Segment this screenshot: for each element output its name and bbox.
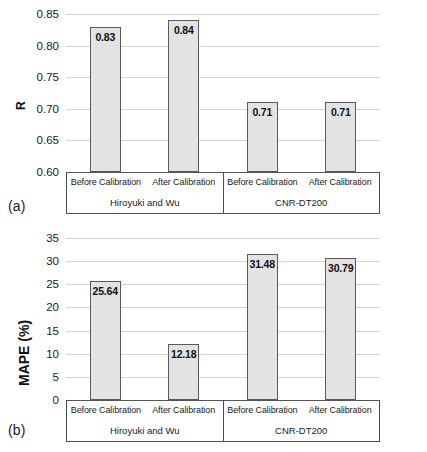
y-axis-tick-label: 0.75: [37, 71, 59, 83]
panel-a-plot-area: 0.600.650.700.750.800.85 0.830.840.710.7…: [66, 14, 380, 172]
condition-row: Before CalibrationAfter Calibration: [224, 400, 380, 420]
condition-row: Before CalibrationAfter Calibration: [224, 172, 380, 192]
condition-row: Before CalibrationAfter Calibration: [67, 400, 223, 420]
panel-b-bars: 25.6412.1831.4830.79: [66, 238, 380, 400]
condition-label: Before Calibration: [224, 400, 302, 420]
group-label: CNR-DT200: [224, 192, 380, 213]
bar: 0.71: [325, 102, 356, 172]
group-label: CNR-DT200: [224, 420, 380, 441]
y-axis-tick-label: 0.60: [37, 166, 59, 178]
y-axis-tick-label: 15: [46, 325, 59, 337]
y-axis-tick-label: 0.80: [37, 40, 59, 52]
category-group: Before CalibrationAfter CalibrationCNR-D…: [223, 400, 380, 441]
y-axis-tick-label: 20: [46, 301, 59, 313]
y-axis-tick-label: 0.85: [37, 8, 59, 20]
category-group: Before CalibrationAfter CalibrationHiroy…: [67, 400, 223, 441]
panel-b-y-axis-title: MAPE (%): [16, 320, 32, 386]
condition-label: Before Calibration: [67, 400, 145, 420]
bar: 0.83: [90, 27, 121, 172]
category-group: Before CalibrationAfter CalibrationHiroy…: [67, 172, 223, 213]
condition-label: After Calibration: [145, 172, 223, 192]
condition-label: Before Calibration: [67, 172, 145, 192]
bar-value-label: 0.84: [174, 24, 194, 36]
panel-a-y-axis-title: R: [14, 101, 28, 110]
bar: 12.18: [168, 344, 199, 400]
chart-panel-b: (b) MAPE (%) 05101520253035 25.6412.1831…: [0, 226, 427, 452]
y-axis-tick-label: 10: [46, 348, 59, 360]
bar: 0.71: [247, 102, 278, 172]
condition-label: Before Calibration: [224, 172, 302, 192]
chart-panel-a: (a) R 0.600.650.700.750.800.85 0.830.840…: [0, 0, 427, 226]
y-axis-tick-label: 30: [46, 255, 59, 267]
condition-label: After Calibration: [301, 172, 379, 192]
y-axis-tick-label: 0: [53, 394, 59, 406]
bar-value-label: 0.83: [95, 31, 115, 43]
bar-value-label: 12.18: [171, 348, 196, 360]
condition-label: After Calibration: [145, 400, 223, 420]
bar: 25.64: [90, 281, 121, 400]
bar: 31.48: [247, 254, 278, 400]
category-group: Before CalibrationAfter CalibrationCNR-D…: [223, 172, 380, 213]
group-label: Hiroyuki and Wu: [67, 420, 223, 441]
y-axis-tick-label: 35: [46, 232, 59, 244]
panel-a-bars: 0.830.840.710.71: [66, 14, 380, 172]
category-group-row: Before CalibrationAfter CalibrationHiroy…: [67, 400, 379, 441]
panel-a-letter: (a): [8, 198, 26, 214]
category-group-row: Before CalibrationAfter CalibrationHiroy…: [67, 172, 379, 213]
bar-value-label: 0.71: [331, 106, 351, 118]
panel-b-plot-area: 05101520253035 25.6412.1831.4830.79: [66, 238, 380, 400]
bar-value-label: 31.48: [250, 258, 275, 270]
bar-value-label: 25.64: [93, 285, 118, 297]
group-label: Hiroyuki and Wu: [67, 192, 223, 213]
bar: 0.84: [168, 20, 199, 172]
bar: 30.79: [325, 258, 356, 401]
y-axis-tick-label: 5: [53, 371, 59, 383]
condition-row: Before CalibrationAfter Calibration: [67, 172, 223, 192]
panel-b-letter: (b): [8, 422, 26, 438]
bar-value-label: 30.79: [328, 262, 353, 274]
panel-a-category-table: Before CalibrationAfter CalibrationHiroy…: [66, 172, 380, 214]
y-axis-tick-label: 0.70: [37, 103, 59, 115]
y-axis-tick-label: 25: [46, 278, 59, 290]
condition-label: After Calibration: [301, 400, 379, 420]
panel-b-category-table: Before CalibrationAfter CalibrationHiroy…: [66, 400, 380, 442]
bar-value-label: 0.71: [252, 106, 272, 118]
y-axis-tick-label: 0.65: [37, 134, 59, 146]
